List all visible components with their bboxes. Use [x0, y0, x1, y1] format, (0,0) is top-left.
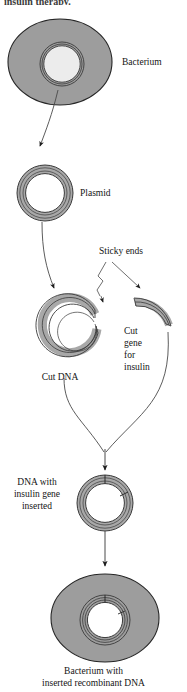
label-cut-gene-line3: for [124, 350, 135, 361]
label-cut-gene-line4: insulin [124, 362, 150, 373]
cut-gene-fragment [134, 298, 171, 326]
caption-line1: Bacterium with [0, 666, 187, 677]
bacterium-bottom [51, 574, 159, 662]
label-recombinant-line2: insulin gene [2, 489, 72, 500]
label-cut-gene-line2: gene [124, 338, 142, 349]
diagram-graphics [0, 0, 187, 692]
label-recombinant-line3: inserted [2, 501, 72, 512]
diagram-canvas: insulin therapy. [0, 0, 187, 692]
caption-line2: inserted recombinant DNA [0, 678, 187, 689]
cut-dna-ring [36, 294, 98, 357]
arrow-plasmid-to-cutdna [42, 222, 54, 288]
label-sticky-ends: Sticky ends [99, 246, 143, 257]
bacterium-top [8, 19, 112, 105]
label-bacterium: Bacterium [122, 57, 162, 68]
label-plasmid: Plasmid [80, 188, 111, 199]
plasmid-ring [17, 165, 73, 221]
recombinant-plasmid-ring [77, 475, 133, 531]
label-cut-gene-line1: Cut [124, 326, 138, 337]
sticky-ends-leaders [97, 262, 140, 302]
label-recombinant-line1: DNA with [2, 477, 72, 488]
label-cut-dna: Cut DNA [30, 372, 90, 383]
